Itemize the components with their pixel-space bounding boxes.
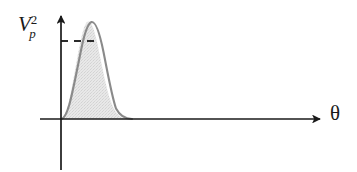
x-axis-label: θ [330, 103, 340, 124]
figure-container: V2p θ [0, 0, 357, 172]
y-axis-label: V2p [18, 12, 44, 38]
shaded-lobe-group [61, 21, 132, 119]
curve-fill-area [61, 21, 132, 119]
y-axis-label-superscript: 2 [31, 12, 38, 27]
y-axis-label-subscript: p [29, 26, 36, 41]
plot-canvas [0, 0, 357, 172]
